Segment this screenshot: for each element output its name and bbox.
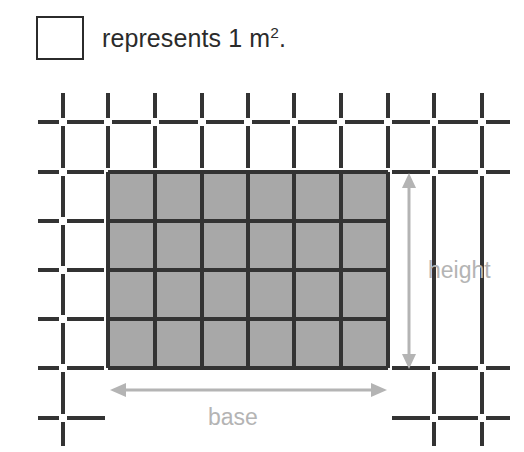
height-label: height [428, 257, 491, 284]
grid-and-rectangle [0, 0, 524, 452]
height-arrow [402, 173, 416, 369]
base-label: base [208, 404, 258, 431]
area-rectangle-diagram: represents 1 m2. [0, 0, 524, 452]
base-arrow [110, 383, 387, 397]
